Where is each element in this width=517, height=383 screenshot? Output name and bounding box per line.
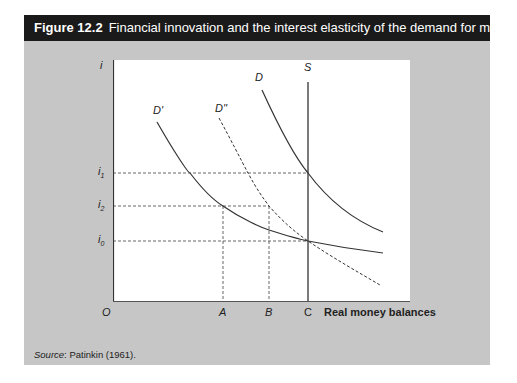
figure-number: Figure 12.2 [34,20,103,35]
demand-curve-D-double-prime [219,118,380,285]
label-D-prime: D' [153,104,163,116]
source-note: Source: Patinkin (1961). [34,349,136,360]
tick-i2: i2 [98,198,104,212]
tick-i1: i1 [98,165,104,179]
source-text: : Patinkin (1961). [64,349,136,360]
demand-curve-D-prime [157,122,383,253]
figure-title: Financial innovation and the interest el… [109,20,517,35]
x-axis-title: Real money balances [324,306,436,318]
demand-curve-D [262,90,383,232]
y-axis-label: i [100,59,102,71]
plot-area: D' D'' D S [113,60,410,302]
figure-panel: Figure 12.2Financial innovation and the … [24,15,490,365]
chart-svg [113,60,410,302]
reference-lines [113,173,308,302]
tick-A: A [219,306,226,318]
tick-B: B [265,306,272,318]
tick-i0: i0 [98,233,104,247]
label-S: S [304,61,311,73]
tick-C: C [304,306,312,318]
label-D-double-prime: D'' [215,102,227,114]
figure-title-bar: Figure 12.2Financial innovation and the … [24,15,490,41]
label-D: D [255,71,263,83]
origin-label: O [102,306,111,318]
source-label: Source [34,349,64,360]
